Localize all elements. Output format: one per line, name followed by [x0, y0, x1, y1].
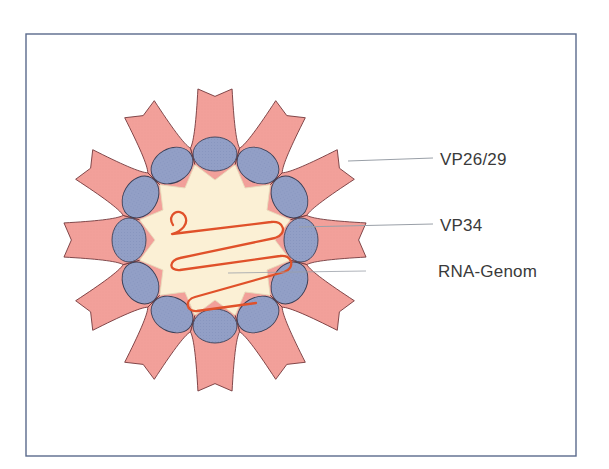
capsomer-ellipse — [112, 218, 146, 262]
capsomer-ellipse — [193, 137, 237, 171]
capsomer-ellipse — [193, 309, 237, 343]
virus-diagram-svg — [0, 0, 609, 469]
leader-line-vp2629 — [348, 158, 433, 161]
figure-canvas: VP26/29 VP34 RNA-Genom — [0, 0, 609, 469]
label-rna-genom: RNA-Genom — [438, 263, 537, 280]
label-vp34: VP34 — [440, 217, 482, 234]
capsomer-ellipse — [284, 218, 318, 262]
label-vp26-29: VP26/29 — [440, 151, 507, 168]
